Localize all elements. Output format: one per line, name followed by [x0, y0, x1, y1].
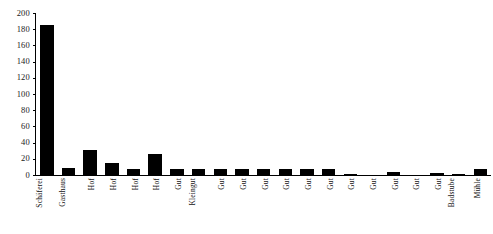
- y-tick-label: 200: [17, 9, 30, 18]
- x-label-slot: Gut: [339, 178, 361, 234]
- x-label-slot: Gut: [404, 178, 426, 234]
- bar-slot: [469, 13, 491, 175]
- x-tick-label: Gut: [262, 178, 270, 190]
- y-tick-label: 40: [21, 138, 30, 147]
- x-tick-label: Hof: [88, 178, 96, 190]
- x-tick-label: Kleingut: [189, 178, 197, 205]
- bar-slot: [209, 13, 231, 175]
- x-label-slot: Gut: [361, 178, 383, 234]
- bar-slot: [231, 13, 253, 175]
- bar-slot: [426, 13, 448, 175]
- bar-slot: [123, 13, 145, 175]
- bar-slot: [448, 13, 470, 175]
- y-tick-label: 20: [21, 154, 30, 163]
- x-axis-line: [36, 175, 491, 176]
- x-tick-label: Schäferei: [36, 178, 44, 208]
- x-label-slot: Gut: [209, 178, 231, 234]
- bar-slot: [79, 13, 101, 175]
- x-label-slot: Schäferei: [36, 178, 58, 234]
- x-tick-label: Gut: [348, 178, 356, 190]
- x-label-slot: Kleingut: [188, 178, 210, 234]
- bar: [62, 168, 75, 175]
- x-tick-label: Gasthaus: [58, 178, 66, 207]
- x-tick-label: Gut: [392, 178, 400, 190]
- x-tick-label: Gut: [240, 178, 248, 190]
- y-tick-label: 60: [21, 122, 30, 131]
- y-axis: 020406080100120140160180200: [0, 0, 36, 234]
- bar: [148, 154, 161, 175]
- x-tick-label: Badstube: [448, 178, 456, 207]
- bar-slot: [361, 13, 383, 175]
- y-tick-label: 0: [26, 171, 30, 180]
- y-tick-label: 140: [17, 57, 30, 66]
- x-label-slot: Hof: [101, 178, 123, 234]
- bar-slot: [58, 13, 80, 175]
- x-tick-label: Mühle: [474, 178, 482, 198]
- y-tick-label: 160: [17, 41, 30, 50]
- x-tick-label: Gut: [435, 178, 443, 190]
- bars-container: [36, 13, 491, 175]
- x-tick-label: Hof: [153, 178, 161, 190]
- x-tick-label: Gut: [327, 178, 335, 190]
- bar-slot: [296, 13, 318, 175]
- bar: [83, 150, 96, 175]
- y-tick-label: 180: [17, 25, 30, 34]
- x-tick-label: Gut: [370, 178, 378, 190]
- bar: [40, 25, 53, 175]
- bar-slot: [383, 13, 405, 175]
- x-tick-label: Hof: [110, 178, 118, 190]
- x-label-slot: Gut: [231, 178, 253, 234]
- x-label-slot: Gut: [274, 178, 296, 234]
- bar-slot: [101, 13, 123, 175]
- x-tick-label: Gut: [218, 178, 226, 190]
- x-tick-label: Gut: [413, 178, 421, 190]
- y-tick-label: 80: [21, 106, 30, 115]
- bar-slot: [166, 13, 188, 175]
- y-tick-label: 120: [17, 73, 30, 82]
- bar-slot: [144, 13, 166, 175]
- bar: [105, 163, 118, 175]
- bar-slot: [253, 13, 275, 175]
- bar-slot: [188, 13, 210, 175]
- bar-slot: [404, 13, 426, 175]
- bar-slot: [274, 13, 296, 175]
- bar-slot: [318, 13, 340, 175]
- x-label-slot: Badstube: [448, 178, 470, 234]
- bar-slot: [36, 13, 58, 175]
- x-label-slot: Hof: [123, 178, 145, 234]
- x-label-slot: Gut: [383, 178, 405, 234]
- x-label-slot: Hof: [144, 178, 166, 234]
- x-label-slot: Hof: [79, 178, 101, 234]
- y-tick-label: 100: [17, 90, 30, 99]
- bar-slot: [339, 13, 361, 175]
- x-tick-label: Hof: [131, 178, 139, 190]
- x-label-slot: Gut: [296, 178, 318, 234]
- plot-area: [36, 13, 491, 175]
- bar-chart: 020406080100120140160180200 SchäfereiGas…: [0, 0, 493, 234]
- x-label-slot: Gut: [253, 178, 275, 234]
- x-tick-label: Gut: [305, 178, 313, 190]
- x-label-slot: Gut: [166, 178, 188, 234]
- x-tick-label: Gut: [283, 178, 291, 190]
- x-label-slot: Mühle: [469, 178, 491, 234]
- x-label-slot: Gut: [318, 178, 340, 234]
- x-tick-label: Gut: [175, 178, 183, 190]
- x-axis-labels: SchäfereiGasthausHofHofHofHofGutKleingut…: [36, 178, 491, 234]
- x-label-slot: Gasthaus: [58, 178, 80, 234]
- x-label-slot: Gut: [426, 178, 448, 234]
